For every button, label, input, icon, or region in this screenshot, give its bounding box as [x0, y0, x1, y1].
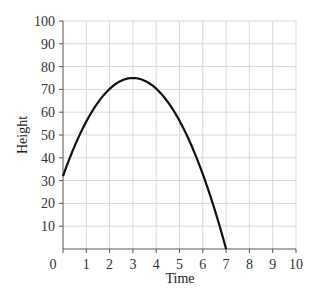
x-tick-label: 5 [176, 257, 183, 272]
y-tick-label: 10 [41, 219, 55, 234]
x-tick-label: 9 [269, 257, 276, 272]
y-axis-ticks: 102030405060708090100 [34, 14, 63, 234]
x-axis-label: Time [165, 271, 194, 286]
y-tick-label: 30 [41, 174, 55, 189]
x-tick-label: 7 [223, 257, 230, 272]
y-tick-label: 40 [41, 151, 55, 166]
x-axis-ticks: 012345678910 [50, 249, 304, 272]
x-tick-label: 3 [129, 257, 136, 272]
x-tick-label: 8 [246, 257, 253, 272]
y-tick-label: 80 [41, 60, 55, 75]
x-tick-label: 6 [199, 257, 206, 272]
y-tick-label: 70 [41, 82, 55, 97]
height-curve [63, 78, 226, 249]
y-tick-label: 50 [41, 128, 55, 143]
y-tick-label: 20 [41, 196, 55, 211]
x-tick-label: 0 [50, 257, 57, 272]
x-tick-label: 4 [153, 257, 160, 272]
x-tick-label: 10 [289, 257, 303, 272]
y-axis-label: Height [15, 116, 30, 154]
chart: 102030405060708090100 012345678910 Time … [0, 0, 319, 296]
y-tick-label: 100 [34, 14, 55, 29]
x-tick-label: 2 [106, 257, 113, 272]
y-tick-label: 60 [41, 105, 55, 120]
x-tick-label: 1 [83, 257, 90, 272]
y-tick-label: 90 [41, 37, 55, 52]
grid-lines [63, 21, 296, 249]
